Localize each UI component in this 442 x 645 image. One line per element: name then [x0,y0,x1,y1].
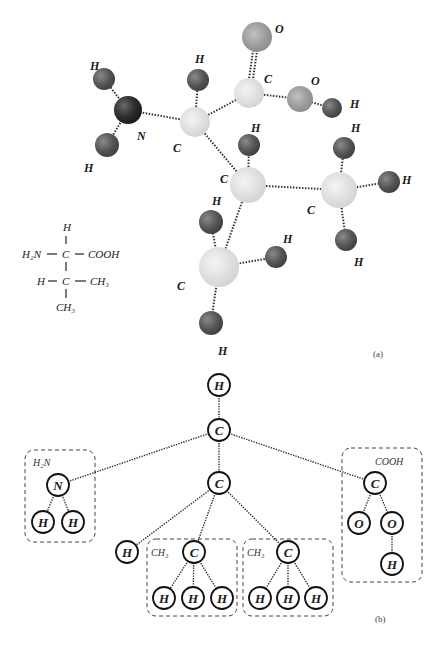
structural-formula: H H₂N C COOH H C CH₃ CH₃ [21,221,120,313]
formula-alpha-carbon: C [62,248,70,260]
atom-h [95,133,119,157]
atom-h [238,134,260,156]
atom-label: C [220,172,229,186]
atom-label: H [89,59,100,73]
atom-n [114,96,142,124]
tree-edge [58,430,219,485]
tree-edge [127,483,219,552]
formula-beta-h: H [36,275,46,287]
atom-o [287,86,313,112]
atom-label: C [173,141,182,155]
atom-label: H [349,97,360,111]
formula-methyl-right: CH₃ [90,275,109,287]
atom-label: H [250,121,261,135]
formula-beta-carbon: C [62,275,70,287]
caption-b: (b) [375,614,386,624]
atom-label: H [282,232,293,246]
atom-label: H [353,255,364,269]
formula-top-h: H [62,221,72,233]
tree-node-N: N [47,474,69,496]
atom-c [230,167,266,203]
atom-label: H [83,161,94,175]
svg-text:H: H [282,591,294,606]
model-atoms [93,22,400,335]
tree-node-CH3b_C: C [277,541,299,563]
tree-node-CH3b_H2: H [277,587,299,609]
atom-c [321,172,357,208]
atom-label: C [177,279,186,293]
atom-h [378,171,400,193]
group-label-amino: H₂N [32,457,52,468]
valine-molecule-figure: HHNHCOCOHHCHCHHHHCH H H₂N C COOH H C CH₃… [0,0,442,645]
svg-text:N: N [52,478,63,493]
atom-label: H [401,173,412,187]
tree-node-root_H: H [208,374,230,396]
atom-c [180,107,210,137]
tree-node-CH3a_C: C [183,541,205,563]
svg-text:H: H [213,378,225,393]
tree-node-C2: C [208,472,230,494]
atom-label: H [217,344,228,358]
tree-node-NH2: H [62,511,84,533]
atom-c [199,247,239,287]
tree-node-NH1: H [32,511,54,533]
svg-text:C: C [215,476,224,491]
tree-edge [219,430,375,483]
atom-label: H [211,194,222,208]
svg-text:H: H [121,545,133,560]
atom-label: O [311,74,320,88]
tree-node-CH3b_H3: H [305,587,327,609]
atom-c [234,78,264,108]
group-label-methyl_b: CH₃ [247,547,265,558]
caption-a: (a) [373,349,383,359]
svg-text:O: O [387,516,397,531]
tree-node-COOH_O1: O [348,512,370,534]
atom-h [335,229,357,251]
tree-nodes: HCNHHCHCHHHCHHHCOOH [32,374,403,609]
atom-h [333,137,355,159]
atom-h [187,69,209,91]
atom-h [199,311,223,335]
svg-text:C: C [190,545,199,560]
svg-text:H: H [386,557,398,572]
svg-text:H: H [37,515,49,530]
formula-amine: H₂N [21,248,42,260]
atom-label: C [307,203,316,217]
tree-node-H_side: H [116,541,138,563]
tree-node-CH3a_H3: H [211,587,233,609]
atom-o [242,22,272,52]
tree-node-COOH_H: H [381,553,403,575]
tree-node-CH3b_H1: H [249,587,271,609]
atom-label: O [275,22,284,36]
tree-node-CH3a_H2: H [182,587,204,609]
formula-methyl-bottom: CH₃ [56,301,75,313]
svg-text:H: H [310,591,322,606]
atom-label: H [194,52,205,66]
svg-text:H: H [254,591,266,606]
svg-text:H: H [216,591,228,606]
svg-text:H: H [67,515,79,530]
svg-text:C: C [371,476,380,491]
atom-label: H [350,121,361,135]
svg-text:O: O [354,516,364,531]
tree-node-CH3a_H1: H [153,587,175,609]
formula-carboxyl: COOH [88,248,120,260]
svg-text:C: C [215,423,224,438]
atom-label: N [136,129,147,143]
tree-node-COOH_C: C [364,472,386,494]
atom-h [322,98,342,118]
tree-node-C1: C [208,419,230,441]
svg-text:C: C [284,545,293,560]
group-label-carboxyl: COOH [375,456,404,467]
atom-label: C [264,72,273,86]
group-label-methyl_a: CH₃ [151,547,169,558]
tree-edge [219,483,288,552]
svg-text:H: H [158,591,170,606]
atom-h [199,210,223,234]
tree-node-COOH_O2: O [381,512,403,534]
svg-text:H: H [187,591,199,606]
atom-h [265,246,287,268]
